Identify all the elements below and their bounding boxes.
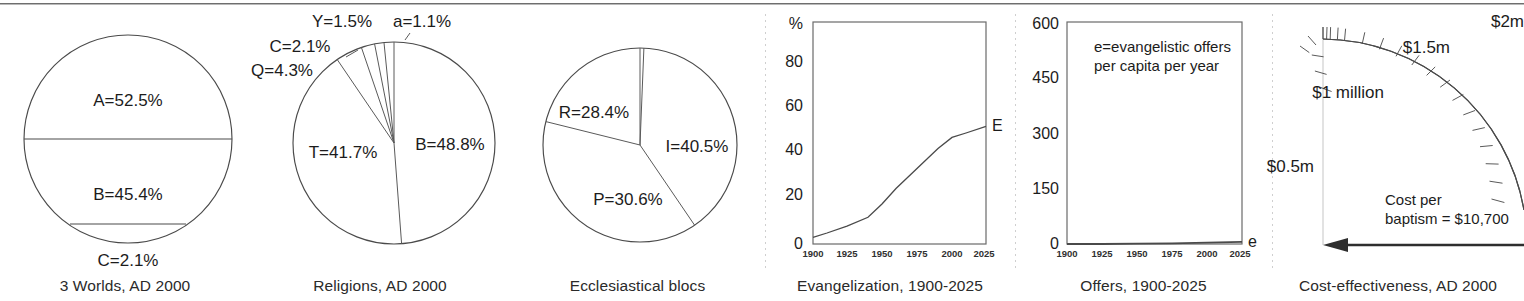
slice-label-c: C=2.1% — [98, 251, 159, 270]
religions-pie-svg: B=48.8% T=41.7% Q=4.3% C=2.1% Y=1.5% a=1… — [250, 0, 510, 275]
offers-note-line2: per capita per year — [1094, 57, 1219, 74]
panel-ecclesiastical-blocs: I=40.5% P=30.6% R=28.4% Ecclesiastical b… — [510, 0, 765, 301]
y-tick-450: 450 — [1032, 69, 1059, 86]
y-tick-80: 80 — [785, 53, 803, 70]
figure-root: A=52.5% B=45.4% C=2.1% 3 Worlds, AD 2000… — [0, 0, 1524, 301]
slice-label-a: a=1.1% — [393, 12, 451, 31]
arc-label-2m: $2m — [1491, 12, 1524, 31]
x-tick-2000: 2000 — [941, 248, 962, 259]
blocs-pie-svg: I=40.5% P=30.6% R=28.4% — [510, 0, 765, 275]
panel-religions: B=48.8% T=41.7% Q=4.3% C=2.1% Y=1.5% a=1… — [250, 0, 510, 301]
caption-ecclesiastical-blocs: Ecclesiastical blocs — [510, 277, 765, 295]
arc-label-1-5m: $1.5m — [1403, 38, 1450, 57]
slice-label-a: A=52.5% — [93, 91, 162, 110]
slice-label-c: C=2.1% — [270, 37, 331, 56]
caption-three-worlds: 3 Worlds, AD 2000 — [0, 277, 250, 295]
x-tick-1900: 1900 — [802, 248, 823, 259]
series-label-E: E — [992, 117, 1003, 134]
arc-label-0-5m: $0.5m — [1267, 157, 1314, 176]
slice-label-b: B=48.8% — [415, 135, 484, 154]
sep-b-t — [394, 143, 402, 244]
x-tick-1925: 1925 — [836, 248, 858, 259]
x-tick-1950: 1950 — [1126, 248, 1147, 259]
y-axis-title: % — [789, 15, 803, 32]
caption-religions: Religions, AD 2000 — [250, 277, 510, 295]
slice-label-t: T=41.7% — [309, 143, 378, 162]
y-tick-300: 300 — [1032, 125, 1059, 142]
x-tick-1975: 1975 — [906, 248, 928, 259]
evangelization-chart-svg: % 80 60 40 20 0 1900 1925 1950 1975 2000… — [765, 0, 1015, 275]
y-tick-150: 150 — [1032, 180, 1059, 197]
sep-r-i — [640, 48, 644, 145]
cost-note-line2: baptism = $10,700 — [1385, 210, 1509, 227]
x-tick-2000: 2000 — [1196, 248, 1217, 259]
caption-offers: Offers, 1900-2025 — [1015, 277, 1272, 295]
y-tick-20: 20 — [785, 186, 803, 203]
x-tick-1900: 1900 — [1056, 248, 1077, 259]
offers-chart-svg: 600 450 300 150 0 1900 1925 1950 1975 20… — [1015, 0, 1272, 275]
slice-label-r: R=28.4% — [559, 103, 629, 122]
y-tick-60: 60 — [785, 97, 803, 114]
sep-p-r — [546, 122, 640, 145]
slice-label-i: I=40.5% — [666, 137, 729, 156]
panel-offers: 600 450 300 150 0 1900 1925 1950 1975 20… — [1015, 0, 1272, 301]
panel-cost-effectiveness: $0.5m $1 million $1.5m $2m Cost per bapt… — [1272, 0, 1524, 301]
three-worlds-pie-svg: A=52.5% B=45.4% C=2.1% — [0, 0, 250, 275]
cost-note-line1: Cost per — [1385, 191, 1442, 208]
caption-cost-effectiveness: Cost-effectiveness, AD 2000 — [1272, 277, 1524, 295]
x-tick-2025: 2025 — [973, 248, 995, 259]
slice-label-y: Y=1.5% — [312, 12, 372, 31]
x-tick-1950: 1950 — [871, 248, 892, 259]
scale-arc-overlay — [1323, 39, 1524, 210]
sep-i-p — [640, 145, 695, 225]
scale-arc — [1323, 39, 1524, 210]
indicator-arrow-head — [1323, 238, 1348, 252]
series-line-E — [813, 126, 986, 237]
y-tick-600: 600 — [1032, 15, 1059, 32]
panel-three-worlds: A=52.5% B=45.4% C=2.1% 3 Worlds, AD 2000 — [0, 0, 250, 301]
x-tick-1925: 1925 — [1091, 248, 1113, 259]
offers-note-line1: e=evangelistic offers — [1094, 38, 1231, 55]
cost-effectiveness-svg: $0.5m $1 million $1.5m $2m Cost per bapt… — [1272, 0, 1524, 275]
x-tick-1975: 1975 — [1161, 248, 1183, 259]
slice-label-q: Q=4.3% — [251, 61, 313, 80]
plot-frame — [813, 22, 986, 244]
leader-line-a — [405, 33, 410, 40]
plot-frame — [1067, 22, 1242, 244]
y-tick-40: 40 — [785, 141, 803, 158]
slice-label-b: B=45.4% — [93, 185, 162, 204]
slice-label-p: P=30.6% — [593, 190, 662, 209]
series-label-e: e — [1248, 233, 1257, 250]
caption-evangelization: Evangelization, 1900-2025 — [765, 277, 1015, 295]
panel-evangelization: % 80 60 40 20 0 1900 1925 1950 1975 2000… — [765, 0, 1015, 301]
